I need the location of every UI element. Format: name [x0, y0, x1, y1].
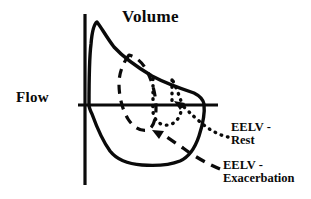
maximal-loop-path	[89, 22, 204, 165]
annotation-eelv-exacerbation-line2: Exacerbation	[223, 172, 295, 185]
exacerbation-leader-arrowhead	[152, 130, 164, 139]
annotation-eelv-exacerbation: EELV - Exacerbation	[223, 159, 295, 185]
eelv-exacerbation-leader	[152, 130, 220, 169]
y-axis-label-flow: Flow	[16, 90, 49, 106]
annotation-eelv-rest-line2: Rest	[231, 134, 271, 147]
annotation-eelv-rest: EELV - Rest	[231, 121, 271, 147]
chart-title-volume: Volume	[122, 8, 179, 26]
flow-volume-loop-figure: Volume Flow EELV - Rest EELV - Exacerbat…	[0, 0, 311, 199]
maximal-flow-volume-loop	[89, 22, 204, 165]
